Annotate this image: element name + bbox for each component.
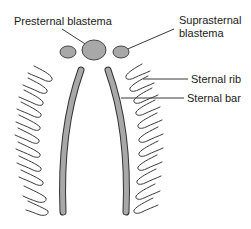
sternal-ribs-left (15, 66, 52, 215)
suprasternal-blastema-right (113, 46, 129, 58)
sternal-bar-right (108, 70, 126, 212)
sternal-bar-left (63, 70, 81, 212)
label-presternal-blastema: Presternal blastema (14, 15, 113, 27)
suprasternal-blastema-left (60, 46, 76, 58)
label-suprasternal-blastema-line1: Suprasternal (179, 14, 241, 26)
label-sternal-rib: Sternal rib (191, 73, 241, 85)
label-suprasternal-blastema-line2: blastema (179, 27, 225, 39)
presternal-blastema (82, 40, 106, 60)
leader-suprasternal (123, 29, 174, 51)
sternum-diagram: Presternal blastema Suprasternal blastem… (0, 0, 251, 229)
label-sternal-bar: Sternal bar (187, 92, 241, 104)
sternal-ribs-right (126, 64, 163, 213)
